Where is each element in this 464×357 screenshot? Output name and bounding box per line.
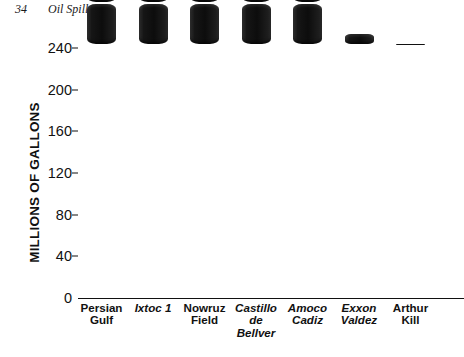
- category-label-line: Kill: [380, 314, 442, 326]
- bar: [190, 0, 219, 44]
- bar-segment: [87, 4, 116, 44]
- bar-segment: [139, 4, 168, 44]
- y-tick-label: 120: [48, 165, 72, 181]
- bar: [345, 33, 374, 44]
- y-axis-title: MILLIONS OF GALLONS: [27, 73, 42, 293]
- y-tick-label: 40: [56, 248, 72, 264]
- bar-segment: [293, 4, 322, 44]
- y-tick-mark: [72, 173, 78, 174]
- y-tick-label: 80: [56, 207, 72, 223]
- plot-area: 04080120160200240: [78, 40, 464, 302]
- y-tick-label: 200: [48, 82, 72, 98]
- y-tick-label: 240: [48, 40, 72, 56]
- y-tick-mark: [72, 48, 78, 49]
- bar-segment: [190, 4, 219, 44]
- bar-segment: [293, 0, 322, 2]
- y-tick-label: 160: [48, 123, 72, 139]
- y-tick-mark: [72, 214, 78, 215]
- bar: [139, 0, 168, 44]
- category-label-line: Gulf: [71, 314, 133, 326]
- bar: [396, 42, 425, 44]
- y-tick-mark: [72, 89, 78, 90]
- bar: [242, 0, 271, 44]
- x-axis-category-label: ArthurKill: [380, 302, 442, 327]
- oil-spills-bar-chart: MILLIONS OF GALLONS 04080120160200240 Pe…: [0, 0, 464, 357]
- bar-segment: [87, 0, 116, 2]
- y-tick-mark: [72, 131, 78, 132]
- bar-segment: [190, 0, 219, 2]
- y-tick-mark: [72, 256, 78, 257]
- bar: [87, 0, 116, 44]
- x-axis-line: [78, 298, 464, 299]
- bar-segment: [242, 4, 271, 44]
- category-label-line: Bellver: [225, 327, 287, 339]
- bar-segment: [242, 0, 271, 2]
- bar-segment: [345, 34, 374, 44]
- bar: [293, 0, 322, 44]
- bar-segment: [139, 0, 168, 2]
